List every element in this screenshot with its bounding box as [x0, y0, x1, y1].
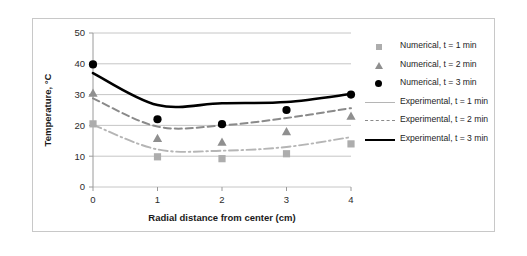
data-point-0-2 [218, 155, 225, 162]
legend-label: Numerical, t = 1 min [400, 41, 493, 51]
dashed-line-key [365, 115, 395, 126]
legend-item-numerical-t2: Numerical, t = 2 min [365, 60, 493, 71]
data-point-0-4 [347, 140, 354, 147]
legend-item-experimental-t1: Experimental, t = 1 min [365, 97, 493, 108]
data-point-1-3 [282, 127, 291, 135]
chart-panel: 01020304050 01234 Temperature, °C Radial… [32, 18, 495, 232]
data-point-1-0 [88, 88, 97, 96]
triangle-marker-key [365, 60, 395, 71]
series-line-5 [93, 73, 351, 107]
data-point-2-4 [347, 91, 355, 99]
data-point-1-1 [153, 134, 162, 142]
gridlines-group [93, 33, 351, 187]
legend-item-experimental-t2: Experimental, t = 2 min [365, 115, 493, 126]
y-tick-label: 20 [74, 120, 85, 131]
data-point-0-0 [89, 120, 96, 127]
data-point-0-1 [154, 153, 161, 160]
data-point-1-2 [217, 137, 226, 145]
y-tick-labels-group: 01020304050 [74, 27, 85, 192]
legend-item-numerical-t3: Numerical, t = 3 min [365, 78, 493, 89]
axes-group [89, 33, 351, 191]
x-tick-labels-group: 01234 [90, 194, 353, 205]
data-point-0-3 [283, 150, 290, 157]
solid-line-icon [365, 139, 395, 141]
y-tick-label: 40 [74, 58, 85, 69]
y-tick-label: 0 [80, 181, 85, 192]
legend-item-numerical-t1: Numerical, t = 1 min [365, 41, 493, 52]
circle-icon [375, 80, 382, 87]
data-point-1-4 [346, 112, 355, 120]
square-icon [376, 44, 382, 50]
figure-container: 01020304050 01234 Temperature, °C Radial… [0, 0, 527, 256]
x-tick-label: 3 [284, 194, 289, 205]
x-tick-label: 2 [219, 194, 224, 205]
legend-item-experimental-t3: Experimental, t = 3 min [365, 134, 493, 145]
data-point-2-1 [153, 115, 161, 123]
data-point-2-0 [89, 60, 97, 68]
y-tick-label: 50 [74, 27, 85, 38]
chart-legend: Numerical, t = 1 min Numerical, t = 2 mi… [365, 41, 493, 152]
x-tick-label: 0 [90, 194, 95, 205]
legend-label: Numerical, t = 3 min [400, 78, 493, 88]
x-tick-label: 4 [348, 194, 353, 205]
data-point-2-2 [218, 120, 226, 128]
solid-line-key [365, 134, 395, 145]
legend-label: Experimental, t = 3 min [400, 134, 493, 144]
data-point-2-3 [282, 106, 290, 114]
y-tick-label: 10 [74, 151, 85, 162]
x-tick-label: 1 [155, 194, 160, 205]
y-axis-title: Temperature, °C [42, 73, 53, 146]
y-tick-label: 30 [74, 89, 85, 100]
legend-label: Numerical, t = 2 min [400, 60, 493, 70]
dashed-line-icon [365, 120, 395, 121]
square-marker-key [365, 41, 395, 52]
circle-marker-key [365, 78, 395, 89]
legend-label: Experimental, t = 1 min [400, 97, 493, 107]
legend-label: Experimental, t = 2 min [400, 115, 493, 125]
x-axis-title: Radial distance from center (cm) [148, 212, 295, 223]
dash-dot-line-icon [365, 102, 395, 103]
dash-dot-line-key [365, 97, 395, 108]
series-markers-group [88, 60, 355, 162]
triangle-icon [375, 62, 383, 69]
